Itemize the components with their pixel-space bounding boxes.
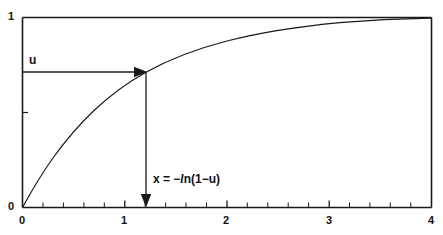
axis-frame [23,18,432,208]
x-tick-label-1: 1 [121,215,127,226]
x-vertical-arrow-head [141,194,151,208]
x-tick-label-3: 3 [326,215,332,226]
x-equation-suffix: n(1−u) [184,172,220,186]
x-axis-major-ticks [125,201,329,208]
x-tick-label-2: 2 [223,215,229,226]
y-tick-label-1: 1 [8,11,14,22]
x-equation-prefix: x = − [153,172,180,186]
x-tick-label-0: 0 [19,215,25,226]
inverse-transform-sampling-figure: 1 0 0 1 2 3 4 u x = −ln(1−u) [0,0,443,235]
y-tick-label-0: 0 [8,201,14,212]
x-equation-annotation: x = −ln(1−u) [153,173,220,185]
plot-canvas [0,0,443,235]
u-annotation-label: u [29,54,36,66]
x-tick-label-4: 4 [428,215,434,226]
x-vertical-arrow [141,72,151,208]
cdf-curve [23,18,432,207]
u-horizontal-arrow [23,67,148,77]
